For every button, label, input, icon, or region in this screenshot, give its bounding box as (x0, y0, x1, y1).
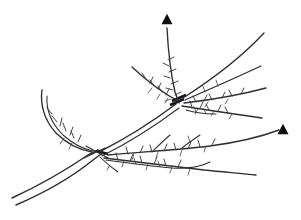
branch-illustration (0, 0, 301, 220)
figure-root: Thorny branch line drawing (0, 0, 301, 220)
figure-background (0, 0, 301, 220)
